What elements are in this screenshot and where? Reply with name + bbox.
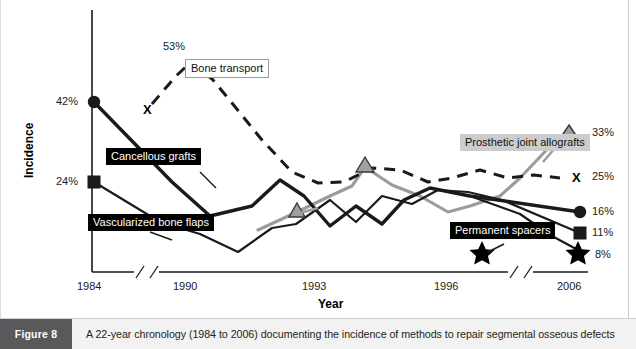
callout-permanent-spacers: Permanent spacers [450, 222, 555, 239]
callout-bone-transport-label: Bone transport [191, 62, 263, 74]
marker-square-end [574, 227, 587, 240]
callout-permanent-spacers-label: Permanent spacers [455, 224, 550, 236]
x-tick-1984: 1984 [77, 280, 101, 293]
figure-caption-bar: Figure 8 A 22-year chronology (1984 to 2… [0, 318, 636, 349]
callout-vascularized-bone-flaps-label: Vascularized bone flaps [93, 216, 209, 228]
x-axis-title: Year [318, 298, 343, 312]
marker-star-callout [469, 241, 494, 265]
y-label-16: 16% [592, 205, 614, 218]
marker-square-start [88, 176, 101, 189]
y-label-25: 25% [592, 170, 614, 183]
y-label-11: 11% [592, 226, 613, 239]
figure-root: Incidence 42% 24% 33% 25% 16% 11% 8% 53%… [0, 0, 636, 349]
callout-cancellous-grafts-label: Cancellous grafts [111, 150, 196, 162]
callout-prosthetic-joint-allografts: Prosthetic joint allografts [460, 134, 590, 151]
y-label-33: 33% [592, 126, 614, 139]
y-axis-title: Incidence [22, 123, 36, 178]
x-marker-right-icon: X [572, 170, 581, 185]
figure-caption-text: A 22-year chronology (1984 to 2006) docu… [72, 319, 636, 349]
series-bone-transport [152, 63, 560, 183]
figure-number-badge: Figure 8 [0, 319, 72, 349]
marker-circle-start [88, 96, 100, 108]
x-tick-1996: 1996 [434, 280, 458, 293]
marker-circle-end [574, 206, 586, 218]
callout-bone-transport: Bone transport [185, 59, 269, 78]
chart-canvas: Incidence 42% 24% 33% 25% 16% 11% 8% 53%… [0, 0, 636, 312]
callout-prosthetic-joint-allografts-label: Prosthetic joint allografts [465, 136, 585, 148]
x-axis [92, 266, 588, 278]
y-label-24: 24% [56, 175, 78, 188]
line-chart-svg [0, 0, 636, 312]
x-tick-1990: 1990 [173, 280, 197, 293]
x-tick-1993: 1993 [302, 280, 326, 293]
y-label-42: 42% [56, 95, 78, 108]
x-tick-2006: 2006 [557, 280, 581, 293]
callout-cancellous-grafts: Cancellous grafts [106, 148, 201, 165]
x-marker-left-icon: X [143, 102, 152, 117]
peak-value-label: 53% [163, 40, 185, 53]
callout-vascularized-bone-flaps: Vascularized bone flaps [88, 214, 214, 231]
marker-triangle-mid-2 [356, 157, 374, 172]
y-label-8: 8% [595, 248, 611, 261]
